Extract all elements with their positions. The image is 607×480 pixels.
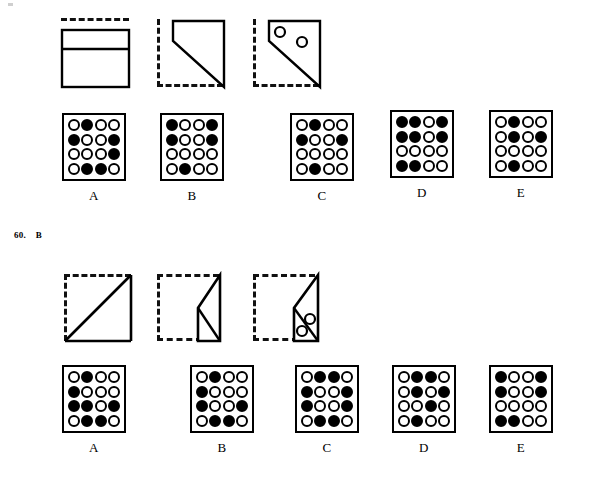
filled-circle bbox=[314, 415, 326, 427]
open-circle bbox=[336, 148, 348, 160]
open-circle bbox=[95, 371, 107, 383]
open-circle bbox=[535, 160, 547, 172]
open-circle bbox=[68, 415, 80, 427]
filled-circle bbox=[535, 386, 547, 398]
open-circle bbox=[179, 119, 191, 131]
question-partial-top: A B C D E bbox=[0, 0, 607, 215]
option-grid bbox=[290, 113, 354, 181]
stimulus-panel-1 bbox=[58, 269, 142, 345]
question-number: 60. bbox=[14, 230, 26, 240]
filled-circle bbox=[425, 371, 437, 383]
open-circle bbox=[95, 134, 107, 146]
open-circle bbox=[196, 371, 208, 383]
stimulus-panel-1 bbox=[58, 14, 142, 90]
filled-circle bbox=[396, 116, 408, 128]
option-d[interactable]: D bbox=[392, 365, 456, 456]
filled-circle bbox=[206, 134, 218, 146]
filled-circle bbox=[309, 119, 321, 131]
filled-circle bbox=[209, 371, 221, 383]
open-circle bbox=[522, 131, 534, 143]
open-circle bbox=[193, 134, 205, 146]
option-b[interactable]: B bbox=[190, 365, 254, 456]
open-circle bbox=[425, 415, 437, 427]
filled-circle bbox=[108, 400, 120, 412]
fold-triangle-shape bbox=[152, 269, 236, 345]
option-grid bbox=[62, 365, 126, 433]
worksheet-page: A B C D E 60.B bbox=[0, 0, 607, 480]
open-circle bbox=[423, 145, 435, 157]
filled-circle bbox=[81, 415, 93, 427]
open-circle bbox=[438, 400, 450, 412]
filled-circle bbox=[341, 386, 353, 398]
open-circle bbox=[95, 119, 107, 131]
open-circle bbox=[95, 400, 107, 412]
filled-circle bbox=[336, 134, 348, 146]
open-circle bbox=[425, 386, 437, 398]
open-circle bbox=[81, 148, 93, 160]
option-a[interactable]: A bbox=[62, 113, 126, 204]
open-circle bbox=[436, 160, 448, 172]
filled-circle bbox=[411, 386, 423, 398]
filled-circle bbox=[196, 386, 208, 398]
option-letter: D bbox=[390, 185, 454, 201]
open-circle bbox=[522, 386, 534, 398]
filled-circle bbox=[301, 386, 313, 398]
filled-circle bbox=[108, 134, 120, 146]
open-circle bbox=[209, 400, 221, 412]
open-circle bbox=[396, 145, 408, 157]
open-circle bbox=[179, 134, 191, 146]
open-circle bbox=[411, 400, 423, 412]
open-circle bbox=[495, 400, 507, 412]
filled-circle bbox=[95, 163, 107, 175]
open-circle bbox=[438, 415, 450, 427]
filled-circle bbox=[209, 415, 221, 427]
filled-circle bbox=[166, 134, 178, 146]
open-circle bbox=[236, 415, 248, 427]
open-circle bbox=[438, 371, 450, 383]
filled-circle bbox=[409, 116, 421, 128]
filled-circle bbox=[206, 119, 218, 131]
filled-circle bbox=[309, 163, 321, 175]
open-circle bbox=[193, 148, 205, 160]
open-circle bbox=[398, 400, 410, 412]
open-circle bbox=[535, 400, 547, 412]
filled-circle bbox=[341, 400, 353, 412]
filled-circle bbox=[508, 160, 520, 172]
open-circle bbox=[341, 371, 353, 383]
option-letter: E bbox=[489, 185, 553, 201]
filled-circle bbox=[196, 400, 208, 412]
open-circle bbox=[68, 148, 80, 160]
filled-circle bbox=[301, 400, 313, 412]
filled-circle bbox=[411, 371, 423, 383]
open-circle bbox=[81, 134, 93, 146]
stimulus-panel-3 bbox=[248, 14, 332, 90]
open-circle bbox=[398, 386, 410, 398]
open-circle bbox=[209, 386, 221, 398]
stimulus-panel-2 bbox=[152, 14, 236, 90]
option-e[interactable]: E bbox=[489, 110, 553, 201]
option-grid bbox=[160, 113, 224, 181]
option-c[interactable]: C bbox=[295, 365, 359, 456]
option-grid bbox=[392, 365, 456, 433]
option-d[interactable]: D bbox=[390, 110, 454, 201]
filled-circle bbox=[95, 415, 107, 427]
open-circle bbox=[314, 386, 326, 398]
option-c[interactable]: C bbox=[290, 113, 354, 204]
open-circle bbox=[436, 145, 448, 157]
open-circle bbox=[68, 163, 80, 175]
option-b[interactable]: B bbox=[160, 113, 224, 204]
filled-circle bbox=[314, 371, 326, 383]
fold-diagonal-punched-shape bbox=[248, 14, 332, 90]
option-e[interactable]: E bbox=[489, 365, 553, 456]
option-letter: C bbox=[290, 188, 354, 204]
open-circle bbox=[68, 371, 80, 383]
filled-circle bbox=[535, 371, 547, 383]
open-circle bbox=[423, 116, 435, 128]
option-a[interactable]: A bbox=[62, 365, 126, 456]
option-grid bbox=[295, 365, 359, 433]
square-diagonal-shape bbox=[58, 269, 142, 345]
option-grid bbox=[390, 110, 454, 178]
open-circle bbox=[398, 371, 410, 383]
filled-circle bbox=[81, 371, 93, 383]
open-circle bbox=[495, 131, 507, 143]
